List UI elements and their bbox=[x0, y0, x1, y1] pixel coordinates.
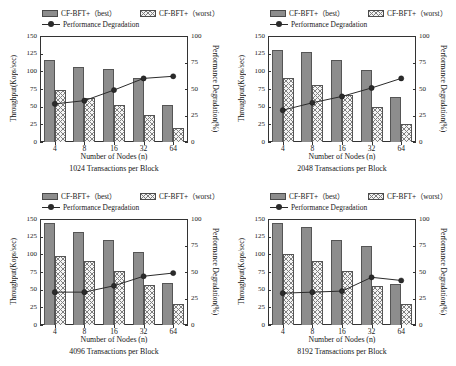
degradation-data-point bbox=[82, 98, 87, 103]
secondary-y-axis-tick-label: 25 bbox=[419, 295, 441, 302]
y-axis-tick-label: 75 bbox=[15, 86, 37, 93]
secondary-y-axis-tick-label: 75 bbox=[191, 242, 213, 249]
chart-legend: CF-BFT+（best）CF-BFT+（worst）Performance D… bbox=[0, 6, 228, 34]
secondary-y-axis-tick-label: 25 bbox=[419, 112, 441, 119]
y-axis-tick-label: 25 bbox=[15, 304, 37, 311]
degradation-data-point bbox=[369, 275, 374, 280]
legend-item-worst: CF-BFT+（worst） bbox=[140, 8, 219, 18]
x-axis-title: Number of Nodes (n) bbox=[228, 335, 456, 344]
x-axis-tick-mark bbox=[84, 325, 85, 328]
line-marker-icon bbox=[270, 21, 288, 28]
legend-item-degradation: Performance Degradation bbox=[42, 202, 139, 212]
y-axis-tick-label: 150 bbox=[15, 216, 37, 223]
degradation-data-point bbox=[339, 94, 344, 99]
chart-panel-2048: CF-BFT+（best）CF-BFT+（worst）Performance D… bbox=[228, 0, 456, 183]
y-axis-tick-mark bbox=[268, 325, 271, 326]
secondary-y-axis-tick-label: 100 bbox=[191, 33, 213, 40]
secondary-y-axis-tick-label: 25 bbox=[191, 295, 213, 302]
legend-label-worst: CF-BFT+（worst） bbox=[387, 192, 447, 201]
secondary-y-axis-tick-mark bbox=[413, 325, 416, 326]
legend-label-worst: CF-BFT+（worst） bbox=[387, 9, 447, 18]
x-axis-tick-mark bbox=[173, 325, 174, 328]
legend-item-worst: CF-BFT+（worst） bbox=[368, 191, 447, 201]
legend-item-worst: CF-BFT+（worst） bbox=[140, 191, 219, 201]
plot-area: 1501251007550250100755025048163264 bbox=[268, 219, 416, 325]
legend-item-best: CF-BFT+（best） bbox=[42, 8, 116, 18]
legend-item-best: CF-BFT+（best） bbox=[270, 191, 344, 201]
degradation-data-point bbox=[280, 108, 285, 113]
secondary-y-axis-tick-label: 0 bbox=[419, 322, 441, 329]
panel-caption: 8192 Transactions per Block bbox=[228, 347, 456, 356]
degradation-data-point bbox=[141, 76, 146, 81]
secondary-y-axis-tick-label: 50 bbox=[419, 86, 441, 93]
degradation-data-point bbox=[310, 100, 315, 105]
x-axis-tick-mark bbox=[55, 142, 56, 145]
plot-area: 1501251007550250100755025048163264 bbox=[268, 36, 416, 142]
best-swatch-icon bbox=[42, 193, 58, 200]
y-axis-tick-label: 125 bbox=[243, 233, 265, 240]
worst-swatch-icon bbox=[368, 10, 384, 17]
y-axis-tick-label: 100 bbox=[15, 251, 37, 258]
worst-swatch-icon bbox=[140, 193, 156, 200]
y-axis-tick-mark bbox=[40, 325, 43, 326]
figure-grid: CF-BFT+（best）CF-BFT+（worst）Performance D… bbox=[0, 0, 456, 366]
x-axis-tick-mark bbox=[401, 142, 402, 145]
secondary-y-axis-tick-label: 75 bbox=[191, 59, 213, 66]
y-axis-tick-label: 150 bbox=[243, 33, 265, 40]
degradation-line-series bbox=[40, 36, 188, 142]
y-axis-tick-label: 0 bbox=[243, 139, 265, 146]
legend-label-worst: CF-BFT+（worst） bbox=[159, 192, 219, 201]
x-axis-tick-mark bbox=[144, 325, 145, 328]
legend-label-degradation: Performance Degradation bbox=[291, 20, 367, 29]
y-axis-tick-label: 25 bbox=[15, 121, 37, 128]
chart-legend: CF-BFT+（best）CF-BFT+（worst）Performance D… bbox=[0, 189, 228, 217]
chart-legend: CF-BFT+（best）CF-BFT+（worst）Performance D… bbox=[228, 6, 456, 34]
panel-caption: 1024 Transactions per Block bbox=[0, 164, 228, 173]
y-axis-tick-label: 125 bbox=[15, 50, 37, 57]
y-axis-tick-label: 0 bbox=[15, 139, 37, 146]
secondary-y-axis-tick-label: 75 bbox=[419, 242, 441, 249]
y-axis-tick-label: 75 bbox=[15, 269, 37, 276]
legend-item-degradation: Performance Degradation bbox=[42, 19, 139, 29]
x-axis-tick-mark bbox=[173, 142, 174, 145]
x-axis-tick-mark bbox=[401, 325, 402, 328]
worst-swatch-icon bbox=[368, 193, 384, 200]
secondary-y-axis-tick-label: 25 bbox=[191, 112, 213, 119]
secondary-y-axis-tick-label: 0 bbox=[191, 139, 213, 146]
x-axis-tick-mark bbox=[283, 142, 284, 145]
degradation-data-point bbox=[399, 278, 404, 283]
line-marker-icon bbox=[42, 21, 60, 28]
y-axis-tick-label: 150 bbox=[243, 216, 265, 223]
degradation-data-point bbox=[111, 283, 116, 288]
legend-item-degradation: Performance Degradation bbox=[270, 202, 367, 212]
chart-panel-8192: CF-BFT+（best）CF-BFT+（worst）Performance D… bbox=[228, 183, 456, 366]
degradation-data-point bbox=[171, 74, 176, 79]
secondary-y-axis-tick-label: 50 bbox=[419, 269, 441, 276]
legend-label-best: CF-BFT+（best） bbox=[61, 192, 116, 201]
x-axis-tick-mark bbox=[312, 142, 313, 145]
x-axis-tick-mark bbox=[84, 142, 85, 145]
plot-area: 1501251007550250100755025048163264 bbox=[40, 36, 188, 142]
degradation-data-point bbox=[141, 274, 146, 279]
secondary-y-axis-tick-label: 50 bbox=[191, 86, 213, 93]
y-axis-tick-label: 0 bbox=[15, 322, 37, 329]
y-axis-tick-label: 50 bbox=[15, 103, 37, 110]
x-axis-title: Number of Nodes (n) bbox=[0, 335, 228, 344]
degradation-data-point bbox=[52, 101, 57, 106]
degradation-data-point bbox=[171, 270, 176, 275]
degradation-data-point bbox=[111, 87, 116, 92]
secondary-y-axis-tick-mark bbox=[185, 142, 188, 143]
x-axis-title: Number of Nodes (n) bbox=[0, 152, 228, 161]
y-axis-tick-label: 100 bbox=[243, 68, 265, 75]
secondary-y-axis-tick-label: 100 bbox=[419, 33, 441, 40]
secondary-y-axis-tick-label: 0 bbox=[419, 139, 441, 146]
secondary-y-axis-tick-label: 50 bbox=[191, 269, 213, 276]
secondary-y-axis-tick-label: 100 bbox=[419, 216, 441, 223]
x-axis-tick-mark bbox=[372, 325, 373, 328]
degradation-data-point bbox=[310, 290, 315, 295]
y-axis-tick-label: 0 bbox=[243, 322, 265, 329]
y-axis-tick-label: 100 bbox=[15, 68, 37, 75]
secondary-y-axis-tick-label: 75 bbox=[419, 59, 441, 66]
legend-label-best: CF-BFT+（best） bbox=[289, 192, 344, 201]
x-axis-tick-mark bbox=[312, 325, 313, 328]
